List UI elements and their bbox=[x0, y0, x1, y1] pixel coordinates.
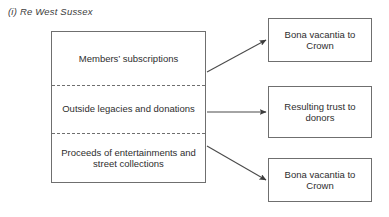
outcome-box-bona-vacantia-bottom: Bona vacantia to Crown bbox=[268, 158, 372, 202]
outcome-box-label: Bona vacantia to Crown bbox=[275, 29, 365, 52]
source-cell-entertainments-street-collections: Proceeds of entertainments and street co… bbox=[52, 133, 205, 183]
arrow-subscriptions-to-bona-vacantia bbox=[207, 40, 266, 72]
outcome-box-bona-vacantia-top: Bona vacantia to Crown bbox=[268, 18, 372, 62]
source-cell-outside-legacies-donations: Outside legacies and donations bbox=[52, 85, 205, 133]
figure-container: (i) Re West Sussex Members’ subscription… bbox=[0, 0, 389, 217]
source-cell-label: Members’ subscriptions bbox=[79, 53, 178, 65]
outcome-box-resulting-trust: Resulting trust to donors bbox=[268, 86, 372, 138]
outcome-box-label: Bona vacantia to Crown bbox=[275, 169, 365, 192]
source-cell-label: Proceeds of entertainments and street co… bbox=[60, 147, 197, 170]
source-cell-label: Outside legacies and donations bbox=[62, 103, 195, 115]
source-cell-members-subscriptions: Members’ subscriptions bbox=[52, 32, 205, 85]
figure-caption: (i) Re West Sussex bbox=[8, 6, 93, 17]
arrow-entertainments-to-bona-vacantia bbox=[207, 146, 266, 180]
source-funds-box: Members’ subscriptions Outside legacies … bbox=[51, 31, 206, 183]
outcome-box-label: Resulting trust to donors bbox=[275, 101, 365, 124]
